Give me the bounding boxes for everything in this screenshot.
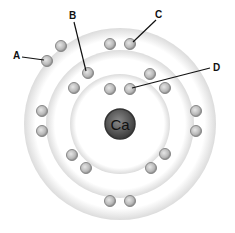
electron [146,163,157,174]
label-d: D [213,62,220,73]
electron [42,56,53,67]
electron [105,84,116,95]
electron [160,149,171,160]
electron [145,69,156,80]
electron [56,41,67,52]
electron [191,126,202,137]
label-a: A [13,50,20,61]
electron [69,83,80,94]
electron [37,106,48,117]
electron [125,39,136,50]
electron [125,84,136,95]
electron [160,83,171,94]
label-c: C [155,9,162,20]
electron [67,150,78,161]
atom-diagram: Ca A B C D [0,0,235,233]
electron [83,68,94,79]
calcium-atom-svg: Ca [0,0,235,233]
nucleus-symbol: Ca [110,116,130,133]
electron [105,196,116,207]
electron [125,196,136,207]
electron [81,163,92,174]
electron [37,126,48,137]
label-b: B [69,10,76,21]
electron [191,106,202,117]
electron [105,39,116,50]
